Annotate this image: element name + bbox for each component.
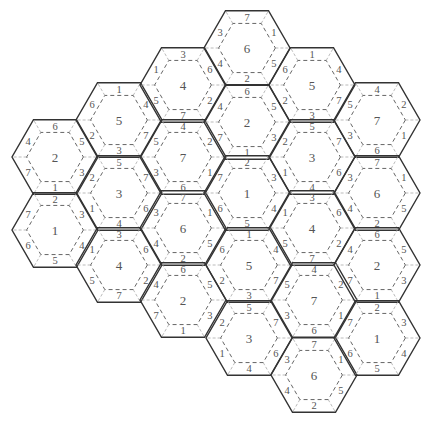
hex-tile-board: 2653174123456751473263576412436275143627…: [0, 0, 431, 427]
tile-edge-number-upper-left: 1: [154, 64, 159, 75]
spoke-line: [162, 48, 169, 61]
tile-edge-number-upper-right: 5: [271, 101, 276, 112]
spoke-line: [293, 400, 300, 413]
tile-center-number: 7: [180, 150, 187, 165]
tile-edge-number-lower-left: 3: [154, 167, 159, 178]
tile-edge-number-top: 1: [116, 84, 121, 95]
tile-center-number: 4: [180, 78, 187, 93]
tile-center-number: 1: [244, 186, 251, 201]
tile-center-number: 6: [374, 186, 381, 201]
tile-edge-number-upper-right: 7: [273, 317, 278, 328]
tile-edge-number-lower-right: 5: [271, 58, 276, 69]
tile-edge-number-lower-left: 6: [26, 240, 31, 251]
tile-edge-number-lower-left: 7: [154, 310, 159, 321]
tile-edge-number-lower-left: 4: [348, 203, 354, 214]
tile-edge-number-lower-left: 2: [90, 130, 95, 141]
tile-center-number: 5: [116, 113, 123, 128]
tile-edge-number-top: 7: [311, 339, 316, 350]
tile-edge-number-upper-right: 3: [271, 172, 276, 183]
tile-edge-number-top: 1: [246, 229, 251, 240]
tile-edge-number-bottom: 7: [116, 290, 121, 301]
tile-edge-number-upper-left: 2: [220, 317, 225, 328]
tile-edge-number-upper-left: 4: [348, 244, 354, 255]
spoke-line: [293, 338, 300, 351]
tile-edge-number-lower-left: 1: [90, 203, 95, 214]
tile-edge-number-lower-left: 7: [348, 275, 353, 286]
tile-edge-number-lower-left: 5: [154, 95, 159, 106]
spoke-line: [291, 48, 298, 61]
tile-edge-number-top: 6: [374, 229, 379, 240]
tile-edge-number-upper-right: 4: [273, 244, 279, 255]
tile-edge-number-top: 6: [244, 86, 249, 97]
tile-center-number: 2: [374, 258, 381, 273]
tile-edge-number-top: 5: [309, 121, 314, 132]
tile-edge-number-bottom: 5: [52, 255, 57, 266]
tile-edge-number-lower-left: 5: [90, 275, 95, 286]
tile-edge-number-upper-left: 5: [285, 279, 290, 290]
tile-edge-number-top: 7: [374, 157, 379, 168]
tile-edge-number-lower-right: 5: [207, 238, 212, 249]
hex-tile: 3576412: [269, 120, 355, 194]
spoke-line: [226, 11, 233, 24]
tile-edge-number-lower-right: 2: [336, 238, 341, 249]
hex-tile: 4362751: [269, 191, 355, 265]
tile-edge-number-lower-left: 4: [154, 238, 160, 249]
tile-edge-number-top: 3: [116, 229, 121, 240]
tile-edge-number-bottom: 6: [374, 145, 379, 156]
tile-edge-number-upper-left: 6: [220, 244, 225, 255]
tile-center-number: 4: [116, 258, 123, 273]
tile-center-number: 2: [180, 293, 187, 308]
spoke-line: [34, 120, 41, 133]
hex-tile: 5147326: [269, 48, 355, 122]
tile-edge-number-bottom: 3: [246, 290, 251, 301]
tile-center-number: 5: [309, 78, 316, 93]
tile-edge-number-upper-left: 6: [283, 64, 288, 75]
tile-edge-number-upper-left: 1: [90, 244, 95, 255]
tile-edge-number-upper-right: 6: [336, 207, 341, 218]
tile-edge-number-lower-left: 2: [220, 275, 225, 286]
tile-edge-number-upper-left: 4: [154, 279, 160, 290]
tile-edge-number-lower-right: 1: [401, 130, 406, 141]
tile-edge-number-top: 1: [309, 49, 314, 60]
hex-tile: 2653174: [12, 120, 98, 194]
spoke-line: [326, 191, 333, 204]
tile-edge-number-lower-right: 6: [336, 167, 341, 178]
hex-tile: 2653174: [204, 85, 290, 159]
tile-center-number: 3: [246, 331, 253, 346]
spoke-line: [326, 48, 333, 61]
tile-edge-number-upper-right: 1: [207, 207, 212, 218]
tile-edge-number-bottom: 6: [311, 325, 316, 336]
spoke-line: [197, 325, 204, 338]
tile-center-number: 6: [180, 221, 187, 236]
tile-edge-number-lower-right: 2: [143, 275, 148, 286]
tile-edge-number-upper-right: 5: [207, 279, 212, 290]
tile-center-number: 2: [244, 115, 251, 130]
tile-edge-number-lower-right: 7: [336, 95, 341, 106]
spoke-line: [328, 400, 335, 413]
spoke-line: [291, 191, 298, 204]
spoke-line: [391, 83, 398, 96]
tile-center-number: 6: [311, 368, 318, 383]
hex-tile: 6715243: [334, 156, 420, 230]
tile-edge-number-bottom: 1: [52, 182, 57, 193]
tile-edge-number-lower-left: 1: [220, 348, 225, 359]
spoke-line: [98, 290, 105, 303]
tile-edge-number-top: 4: [311, 264, 317, 275]
tile-edge-number-lower-right: 3: [79, 167, 84, 178]
tile-edge-number-top: 2: [374, 302, 379, 313]
hex-tile: 4362751: [76, 228, 162, 302]
tile-edge-number-upper-left: 1: [283, 207, 288, 218]
tile-edge-number-lower-right: 4: [401, 348, 407, 359]
spoke-line: [356, 83, 363, 96]
spoke-line: [162, 191, 169, 204]
tile-edge-number-bottom: 2: [244, 73, 249, 84]
spoke-line: [293, 325, 300, 338]
tile-edge-number-upper-right: 1: [271, 27, 276, 38]
tile-edge-number-lower-right: 4: [271, 203, 277, 214]
tile-edge-number-top: 7: [180, 192, 185, 203]
hex-tile: 7421635: [271, 263, 357, 337]
tile-center-number: 4: [309, 221, 316, 236]
tile-center-number: 5: [246, 258, 253, 273]
tile-edge-number-top: 6: [52, 121, 57, 132]
tile-edge-number-lower-left: 7: [26, 167, 31, 178]
